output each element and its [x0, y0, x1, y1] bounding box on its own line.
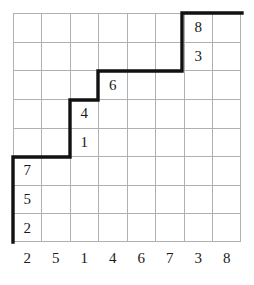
column-label-8: 8 — [213, 251, 242, 266]
cell-c1-r8: 2 — [13, 220, 42, 235]
grid-board: 83641752 — [13, 13, 241, 242]
column-label-3: 1 — [70, 251, 99, 266]
column-label-axis: 25146738 — [13, 0, 241, 30]
column-label-7: 3 — [184, 251, 213, 266]
lattice-path-figure: 83641752 25146738 — [0, 0, 254, 285]
grid-lines — [13, 13, 241, 242]
cell-c1-r7: 5 — [13, 192, 42, 207]
column-label-4: 4 — [99, 251, 128, 266]
cell-c7-r2: 3 — [184, 48, 213, 63]
column-label-5: 6 — [127, 251, 156, 266]
column-label-1: 2 — [13, 251, 42, 266]
cell-c3-r5: 1 — [70, 134, 99, 149]
cell-c4-r3: 6 — [99, 77, 128, 92]
column-label-2: 5 — [42, 251, 71, 266]
cell-c3-r4: 4 — [70, 106, 99, 121]
column-label-6: 7 — [156, 251, 185, 266]
cell-c1-r6: 7 — [13, 163, 42, 178]
